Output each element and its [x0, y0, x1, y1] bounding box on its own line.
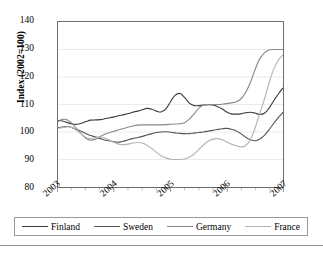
- series-line-sweden: [58, 112, 283, 142]
- y-tick-label: 100: [0, 127, 34, 137]
- legend-line-swatch: [245, 226, 271, 227]
- y-tick-label: 140: [0, 16, 34, 26]
- series-line-france: [58, 55, 283, 160]
- y-tick-label: 80: [0, 183, 34, 193]
- legend-label: Finland: [51, 222, 80, 232]
- legend-line-swatch: [22, 226, 48, 227]
- data-lines: [58, 22, 283, 187]
- y-tick-label: 130: [0, 44, 34, 54]
- x-tick-label: 2003: [41, 178, 62, 198]
- legend-line-swatch: [94, 226, 120, 227]
- legend-item-germany[interactable]: Germany: [167, 222, 231, 232]
- y-tick-label: 90: [0, 155, 34, 165]
- y-tick-label: 120: [0, 72, 34, 82]
- series-line-germany: [58, 49, 283, 140]
- y-tick-label: 110: [0, 100, 34, 110]
- legend-item-sweden[interactable]: Sweden: [94, 222, 153, 232]
- series-line-finland: [58, 88, 283, 124]
- legend-label: Germany: [196, 222, 231, 232]
- legend-line-swatch: [167, 226, 193, 227]
- plot-area: [57, 21, 284, 188]
- footer-rule: [0, 245, 323, 246]
- chart-legend: FinlandSwedenGermanyFrance: [14, 217, 308, 236]
- legend-item-finland[interactable]: Finland: [22, 222, 80, 232]
- legend-label: Sweden: [123, 222, 153, 232]
- chart-figure: Index (2002=100) 8090100110120130140 200…: [0, 0, 323, 255]
- legend-label: France: [274, 222, 300, 232]
- legend-item-france[interactable]: France: [245, 222, 300, 232]
